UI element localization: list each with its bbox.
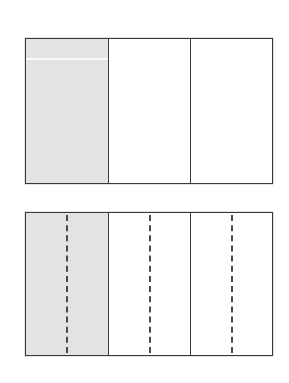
bar-top-part-1	[26, 39, 108, 183]
bar-top-part-2	[108, 39, 190, 183]
fraction-bar-bottom	[25, 212, 273, 356]
bar-bottom-part-2	[108, 213, 190, 355]
bar-bottom-part-3	[190, 213, 272, 355]
fraction-diagram	[0, 0, 289, 383]
scan-artifact	[26, 58, 108, 60]
fraction-bar-top	[25, 38, 273, 184]
bar-top-part-3	[190, 39, 272, 183]
bar-bottom-part-1	[26, 213, 108, 355]
dashed-subdivider-3	[231, 215, 233, 353]
dashed-subdivider-2	[149, 215, 151, 353]
dashed-subdivider-1	[66, 215, 68, 353]
